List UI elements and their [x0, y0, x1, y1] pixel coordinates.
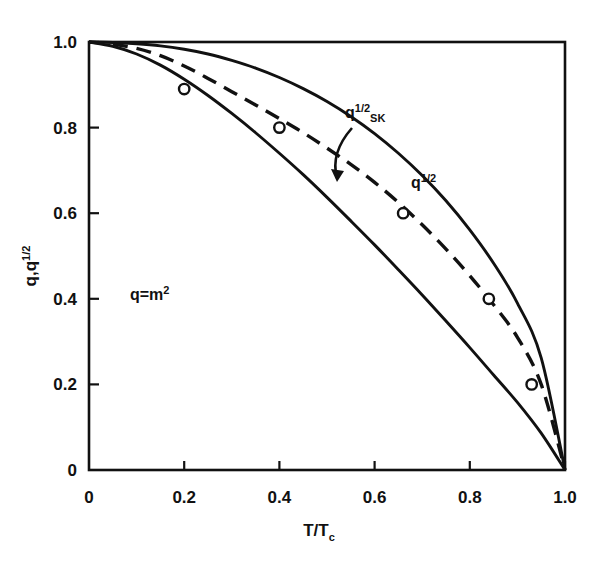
- chart-canvas: 00.20.40.60.81.0 00.20.40.60.81.0 q1/2SK…: [0, 0, 604, 574]
- sk-curve-label-base: q: [345, 104, 355, 121]
- x-tick-label: 0.6: [363, 488, 387, 507]
- q-half-curve-label-superscript: 1/2: [421, 172, 436, 184]
- q-m-squared-label-base: q=m: [130, 286, 163, 303]
- x-axis-title-main: T/T: [303, 521, 329, 540]
- x-tick-label: 0.2: [172, 488, 196, 507]
- y-axis-title-superscript: 1/2: [20, 246, 32, 261]
- data-point-marker: [484, 294, 494, 304]
- q-half-curve-label-base: q: [411, 174, 421, 191]
- data-point-marker: [179, 84, 189, 94]
- y-tick-label: 0.6: [53, 204, 77, 223]
- data-point-marker: [274, 122, 284, 132]
- x-tick-label: 0.4: [268, 488, 292, 507]
- y-tick-label: 0.8: [53, 119, 77, 138]
- x-tick-label: 0.8: [458, 488, 482, 507]
- x-tick-label: 1.0: [553, 488, 577, 507]
- y-tick-label: 1.0: [53, 33, 77, 52]
- y-tick-label: 0.4: [53, 290, 77, 309]
- y-tick-label: 0: [68, 461, 77, 480]
- y-axis-title-main: q,q: [21, 261, 40, 287]
- data-point-marker: [526, 379, 536, 389]
- x-tick-label: 0: [84, 488, 93, 507]
- sk-curve-label-subscript: SK: [370, 112, 385, 124]
- data-point-marker: [398, 208, 408, 218]
- x-axis-title-subscript: c: [329, 531, 335, 543]
- y-tick-label: 0.2: [53, 375, 77, 394]
- chart-figure: 00.20.40.60.81.0 00.20.40.60.81.0 q1/2SK…: [0, 0, 604, 574]
- sk-curve-label-superscript: 1/2: [355, 102, 370, 114]
- q-m-squared-label-superscript: 2: [163, 284, 169, 296]
